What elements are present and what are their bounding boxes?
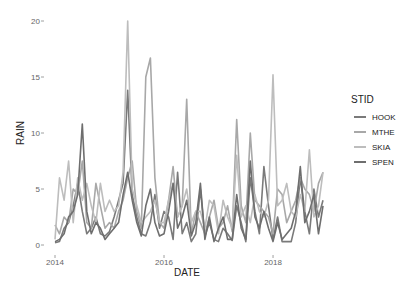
x-axis-title: DATE xyxy=(174,267,200,278)
legend-item-skia: SKIA xyxy=(354,143,391,152)
y-tick-label: 20 xyxy=(31,17,40,26)
y-axis-title: RAIN xyxy=(15,121,26,145)
x-tick-label: 2014 xyxy=(46,258,64,267)
legend-item-hook: HOOK xyxy=(354,113,396,122)
y-tick-label: 0 xyxy=(36,241,41,250)
y-axis: 05101520 xyxy=(31,17,44,250)
legend-label-mthe: MTHE xyxy=(372,128,395,137)
y-tick-label: 10 xyxy=(31,129,40,138)
plot-area xyxy=(55,21,323,243)
x-tick-label: 2018 xyxy=(264,258,282,267)
legend-title: STID xyxy=(351,94,374,105)
series-lines xyxy=(55,21,323,243)
line-chart: 05101520 201420162018 RAIN DATE STID HOO… xyxy=(0,0,406,291)
legend-label-skia: SKIA xyxy=(372,143,391,152)
legend-label-hook: HOOK xyxy=(372,113,396,122)
y-tick-label: 5 xyxy=(36,185,41,194)
legend-item-mthe: MTHE xyxy=(354,128,395,137)
legend-item-spen: SPEN xyxy=(354,158,394,167)
x-axis: 201420162018 xyxy=(46,255,282,267)
x-tick-label: 2016 xyxy=(155,258,173,267)
legend: STID HOOK MTHE SKIA SPEN xyxy=(351,94,396,167)
y-tick-label: 15 xyxy=(31,73,40,82)
series-line-skia xyxy=(55,21,323,239)
legend-label-spen: SPEN xyxy=(372,158,394,167)
